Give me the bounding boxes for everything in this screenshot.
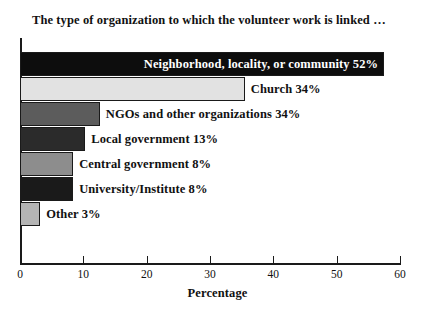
bar-data-label: Neighborhood, locality, or community 52% bbox=[144, 52, 378, 76]
bar-data-label: University/Institute 8% bbox=[79, 177, 207, 201]
bar-row: University/Institute 8% bbox=[20, 177, 400, 201]
x-axis-tick-label: 0 bbox=[17, 268, 23, 280]
bar-row: Church 34% bbox=[20, 77, 400, 101]
x-axis-tick-label: 60 bbox=[394, 268, 406, 280]
x-axis-tick-label: 10 bbox=[78, 268, 90, 280]
bar-row: Local government 13% bbox=[20, 127, 400, 151]
bar-data-label: Other 3% bbox=[46, 202, 100, 226]
x-axis-tick-label: 40 bbox=[268, 268, 280, 280]
x-axis-tick bbox=[210, 256, 211, 264]
bar-row: Other 3% bbox=[20, 202, 400, 226]
bar bbox=[20, 127, 85, 151]
bar-data-label: Church 34% bbox=[251, 77, 321, 101]
x-axis-title: Percentage bbox=[0, 286, 435, 301]
x-axis-tick bbox=[337, 256, 338, 264]
bar-data-label: Central government 8% bbox=[79, 152, 211, 176]
x-axis-tick bbox=[147, 256, 148, 264]
x-axis-tick-label: 50 bbox=[331, 268, 343, 280]
chart-title: The type of organization to which the vo… bbox=[32, 13, 422, 27]
bar bbox=[20, 177, 73, 201]
bar-row: Neighborhood, locality, or community 52% bbox=[20, 52, 400, 76]
bar bbox=[20, 152, 73, 176]
bar-data-label: NGOs and other organizations 34% bbox=[106, 102, 301, 126]
x-axis-tick bbox=[83, 256, 84, 264]
x-axis-tick-label: 20 bbox=[141, 268, 153, 280]
x-axis-tick bbox=[273, 256, 274, 264]
x-axis-tick bbox=[20, 256, 21, 264]
bar-row: Central government 8% bbox=[20, 152, 400, 176]
bar-row: NGOs and other organizations 34% bbox=[20, 102, 400, 126]
x-axis-tick bbox=[400, 256, 401, 264]
bar bbox=[20, 202, 40, 226]
x-axis-tick-label: 30 bbox=[204, 268, 216, 280]
bar bbox=[20, 102, 100, 126]
bar bbox=[20, 77, 245, 101]
bar-data-label: Local government 13% bbox=[91, 127, 218, 151]
bar-chart-figure: The type of organization to which the vo… bbox=[0, 0, 435, 320]
